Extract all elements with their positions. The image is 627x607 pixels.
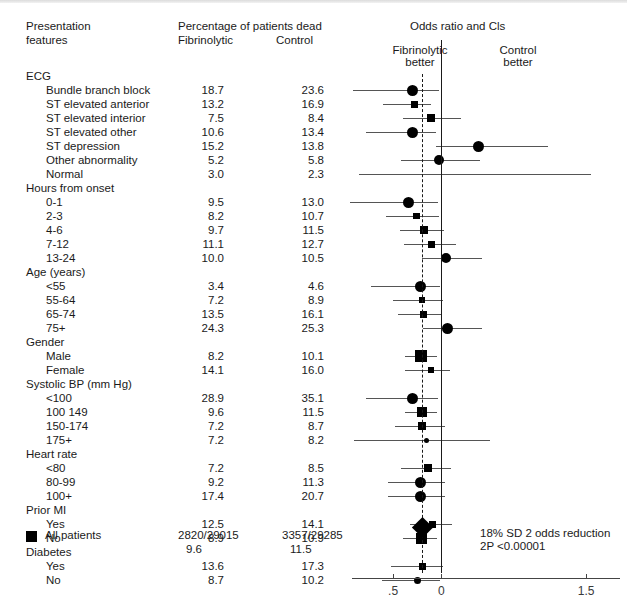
control-better-line2: better [478,56,558,68]
control-better-label: Control better [478,44,558,68]
row-control-value: 23.6 [278,84,324,96]
point-estimate-square [427,114,435,122]
confidence-interval-line [436,146,548,147]
row-control-value: 5.8 [278,154,324,166]
control-better-line1: Control [478,44,558,56]
row-label: ST depression [46,140,120,152]
left-header-line1: Presentation [26,20,91,32]
confidence-interval-line [383,104,430,105]
point-estimate-dot [473,141,484,152]
row-fibrinolytic-value: 28.9 [178,392,224,404]
group-header: Diabetes [26,546,71,558]
row-fibrinolytic-value: 7.2 [178,434,224,446]
row-fibrinolytic-value: 15.2 [178,140,224,152]
mid-header-col-control: Control [276,34,313,46]
row-fibrinolytic-value: 13.5 [178,308,224,320]
row-label: 75+ [46,322,66,334]
row-control-value: 8.9 [278,294,324,306]
all-patients-control-ratio: 3357/29285 [282,529,343,541]
confidence-interval-line [371,286,441,287]
x-axis-line [352,578,620,579]
all-patients-fibrinolytic-pct: 9.6 [186,543,202,555]
row-fibrinolytic-value: 9.5 [178,196,224,208]
confidence-interval-line [353,90,440,91]
row-control-value: 8.2 [278,434,324,446]
row-fibrinolytic-value: 14.1 [178,364,224,376]
point-estimate-dot [407,85,418,96]
row-control-value: 16.1 [278,308,324,320]
row-control-value: 11.5 [278,224,324,236]
row-control-value: 10.5 [278,252,324,264]
point-estimate-dot [415,477,426,488]
x-axis-tick [586,574,587,578]
row-fibrinolytic-value: 11.1 [178,238,224,250]
row-label: No [46,574,61,586]
confidence-interval-line [391,566,443,567]
row-label: 65-74 [46,308,75,320]
row-control-value: 16.9 [278,98,324,110]
group-header: Age (years) [26,266,85,278]
row-control-value: 4.6 [278,280,324,292]
row-label: 2-3 [46,210,63,222]
row-label: 100+ [46,490,72,502]
all-patients-control-pct: 11.5 [290,543,312,555]
confidence-interval-line [382,580,441,581]
point-estimate-dot [434,155,444,165]
fibrinolytic-better-line2: better [374,56,466,68]
fibrinolytic-better-line1: Fibrinolytic [374,44,466,56]
point-estimate-dot [403,197,414,208]
group-header: Hours from onset [26,182,114,194]
fibrinolytic-better-label: Fibrinolytic better [374,44,466,68]
group-header: Prior MI [26,504,66,516]
row-label: Other abnormality [46,154,137,166]
confidence-interval-line [359,174,591,175]
row-label: ST elevated anterior [46,98,149,110]
group-header: ECG [26,70,51,82]
row-label: Male [46,350,71,362]
row-label: <80 [46,462,66,474]
x-axis-tick-label: 0 [416,584,466,598]
row-fibrinolytic-value: 10.6 [178,126,224,138]
x-axis-tick-label: 1.5 [561,584,611,598]
row-label: 100 149 [46,406,88,418]
point-estimate-square [428,241,435,248]
all-patients-label: All patients [45,529,101,541]
row-label: <100 [46,392,72,404]
row-control-value: 17.3 [278,560,324,572]
point-estimate-dot [407,393,418,404]
x-axis-tick [393,574,394,578]
row-control-value: 12.7 [278,238,324,250]
x-axis-tick-label: .5 [368,584,418,598]
row-label: ST elevated interior [46,112,146,124]
row-fibrinolytic-value: 8.7 [178,574,224,586]
point-estimate-dot [424,438,429,443]
row-control-value: 25.3 [278,322,324,334]
row-fibrinolytic-value: 8.2 [178,210,224,222]
summary-annotation-line2: 2P <0.00001 [480,540,610,553]
row-fibrinolytic-value: 7.2 [178,462,224,474]
all-patients-fibrinolytic-ratio: 2820/29015 [178,529,239,541]
group-header: Gender [26,336,64,348]
row-label: ST elevated other [46,126,137,138]
row-label: <55 [46,280,66,292]
summary-annotation: 18% SD 2 odds reduction 2P <0.00001 [480,527,610,553]
row-fibrinolytic-value: 7.5 [178,112,224,124]
row-label: 150-174 [46,420,88,432]
point-estimate-square [424,464,432,472]
row-label: 0-1 [46,196,63,208]
row-control-value: 10.7 [278,210,324,222]
x-axis-tick [441,574,442,578]
row-fibrinolytic-value: 5.2 [178,154,224,166]
row-control-value: 8.7 [278,420,324,432]
row-fibrinolytic-value: 24.3 [178,322,224,334]
row-control-value: 13.4 [278,126,324,138]
row-fibrinolytic-value: 17.4 [178,490,224,502]
row-fibrinolytic-value: 7.2 [178,420,224,432]
row-fibrinolytic-value: 13.6 [178,560,224,572]
point-estimate-square [420,226,429,235]
row-fibrinolytic-value: 13.2 [178,98,224,110]
point-estimate-dot [407,127,418,138]
top-edge-band [0,0,627,3]
row-control-value: 2.3 [278,168,324,180]
row-control-value: 10.2 [278,574,324,586]
